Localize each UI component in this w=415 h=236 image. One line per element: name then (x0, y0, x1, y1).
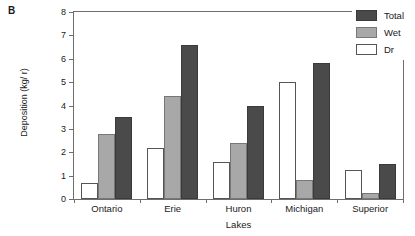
y-axis-tick (69, 152, 74, 153)
legend-label: Total (384, 11, 404, 21)
y-axis-tick-label: 0 (61, 195, 66, 204)
x-axis-group-label-erie: Erie (164, 204, 181, 214)
bar-erie-total (181, 45, 198, 199)
y-axis-tick-label: 6 (61, 54, 66, 63)
figure-panel-b: B Deposition (kg/ r) 012345678OntarioEri… (0, 0, 415, 236)
y-axis-tick (69, 106, 74, 107)
y-axis-tick-label: 2 (61, 148, 66, 157)
bar-huron-total (247, 106, 264, 200)
bar-superior-dr (345, 170, 362, 199)
bar-huron-wet (230, 143, 247, 199)
bar-superior-wet (362, 193, 379, 199)
y-axis-tick-label: 3 (61, 124, 66, 133)
x-axis-tick (74, 199, 75, 203)
y-axis-tick (69, 129, 74, 130)
x-axis-tick (403, 199, 404, 203)
x-axis-tick (140, 199, 141, 203)
x-axis-group-label-ontario: Ontario (91, 204, 122, 214)
legend-swatch-icon (356, 10, 377, 21)
bar-michigan-wet (296, 180, 313, 199)
y-axis-tick (69, 82, 74, 83)
bar-erie-dr (147, 148, 164, 199)
x-axis-group-label-superior: Superior (352, 204, 388, 214)
bar-michigan-dr (279, 82, 296, 199)
y-axis-title: Deposition (kg/ r) (20, 23, 29, 183)
bar-huron-dr (213, 162, 230, 199)
bar-michigan-total (313, 63, 330, 199)
x-axis-group-label-huron: Huron (226, 204, 252, 214)
y-axis-tick-label: 5 (61, 78, 66, 87)
y-axis-tick (69, 35, 74, 36)
y-axis-tick (69, 12, 74, 13)
legend-swatch-icon (356, 27, 377, 38)
x-axis-tick (206, 199, 207, 203)
bar-ontario-dr (81, 183, 98, 199)
chart-legend: TotalWetDr (352, 5, 409, 60)
legend-label: Wet (384, 28, 401, 38)
x-axis-tick (271, 199, 272, 203)
bar-erie-wet (164, 96, 181, 199)
y-axis-tick-label: 8 (61, 8, 66, 17)
legend-item-wet: Wet (356, 25, 404, 40)
y-axis-tick-label: 1 (61, 171, 66, 180)
x-axis-tick (337, 199, 338, 203)
bar-superior-total (379, 164, 396, 199)
bar-ontario-wet (98, 134, 115, 199)
y-axis-tick-label: 4 (61, 101, 66, 110)
y-axis-tick (69, 59, 74, 60)
legend-swatch-icon (356, 44, 377, 55)
legend-label: Dr (384, 45, 394, 55)
legend-item-total: Total (356, 8, 404, 23)
x-axis-title: Lakes (73, 220, 404, 230)
x-axis-group-label-michigan: Michigan (285, 204, 323, 214)
bar-ontario-total (115, 117, 132, 199)
panel-letter: B (8, 6, 15, 16)
y-axis-tick-label: 7 (61, 31, 66, 40)
legend-item-dr: Dr (356, 42, 404, 57)
y-axis-tick (69, 176, 74, 177)
